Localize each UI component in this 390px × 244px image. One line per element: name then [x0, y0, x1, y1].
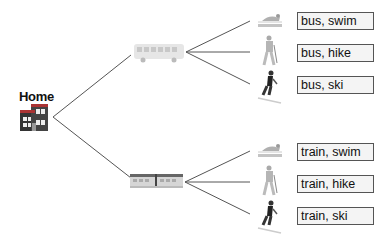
hiker-icon: [262, 165, 278, 197]
skier-icon: [257, 200, 283, 234]
swimmer-icon: [256, 142, 284, 158]
swimmer-icon: [256, 12, 284, 28]
skier-icon: [257, 70, 283, 104]
leaf-label-bus-ski: bus, ski: [297, 76, 374, 94]
hiker-icon: [262, 35, 278, 67]
house-icon: [20, 104, 48, 131]
train-icon: [130, 172, 183, 189]
leaf-label-train-ski: train, ski: [297, 207, 374, 225]
leaf-label-train-swim: train, swim: [297, 143, 374, 161]
leaf-label-bus-swim: bus, swim: [297, 12, 374, 30]
home-label: Home: [19, 89, 54, 104]
leaf-label-bus-hike: bus, hike: [297, 44, 374, 62]
leaf-label-train-hike: train, hike: [297, 175, 374, 193]
bus-icon: [134, 43, 184, 63]
